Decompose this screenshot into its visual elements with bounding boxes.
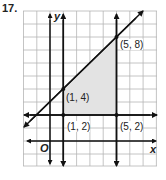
y-axis-label: y — [54, 10, 60, 22]
coordinate-graph — [0, 0, 166, 180]
point-label-5-8: (5, 8) — [120, 39, 143, 50]
point-label-1-2: (1, 2) — [67, 121, 90, 132]
x-axis-label: x — [150, 143, 156, 155]
point-label-1-4: (1, 4) — [66, 92, 89, 103]
point-label-5-2: (5, 2) — [120, 121, 143, 132]
origin-label: O — [40, 142, 49, 154]
